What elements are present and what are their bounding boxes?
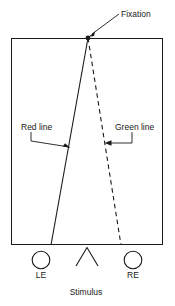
- green-line-leader: [110, 132, 132, 143]
- stimulus-caption: Stimulus: [70, 287, 103, 297]
- green-line-path: [88, 38, 121, 245]
- green-line-label: Green line: [115, 122, 154, 132]
- left-eye-label: LE: [36, 270, 47, 280]
- figure-canvas: Fixation Red line Green line LE RE Stimu…: [0, 0, 175, 306]
- fixation-label: Fixation: [121, 9, 151, 19]
- right-eye-circle: [124, 251, 142, 269]
- stimulus-caret-icon: [76, 248, 98, 267]
- stereopsis-diagram: Fixation Red line Green line LE RE Stimu…: [0, 0, 175, 306]
- red-line-leader: [31, 132, 66, 147]
- fixation-leader-line: [92, 14, 119, 34]
- fixation-arrowhead-icon: [89, 32, 96, 37]
- left-eye-circle: [32, 251, 50, 269]
- red-line-path: [51, 38, 88, 245]
- red-line-label: Red line: [21, 122, 52, 132]
- right-eye-label: RE: [127, 270, 139, 280]
